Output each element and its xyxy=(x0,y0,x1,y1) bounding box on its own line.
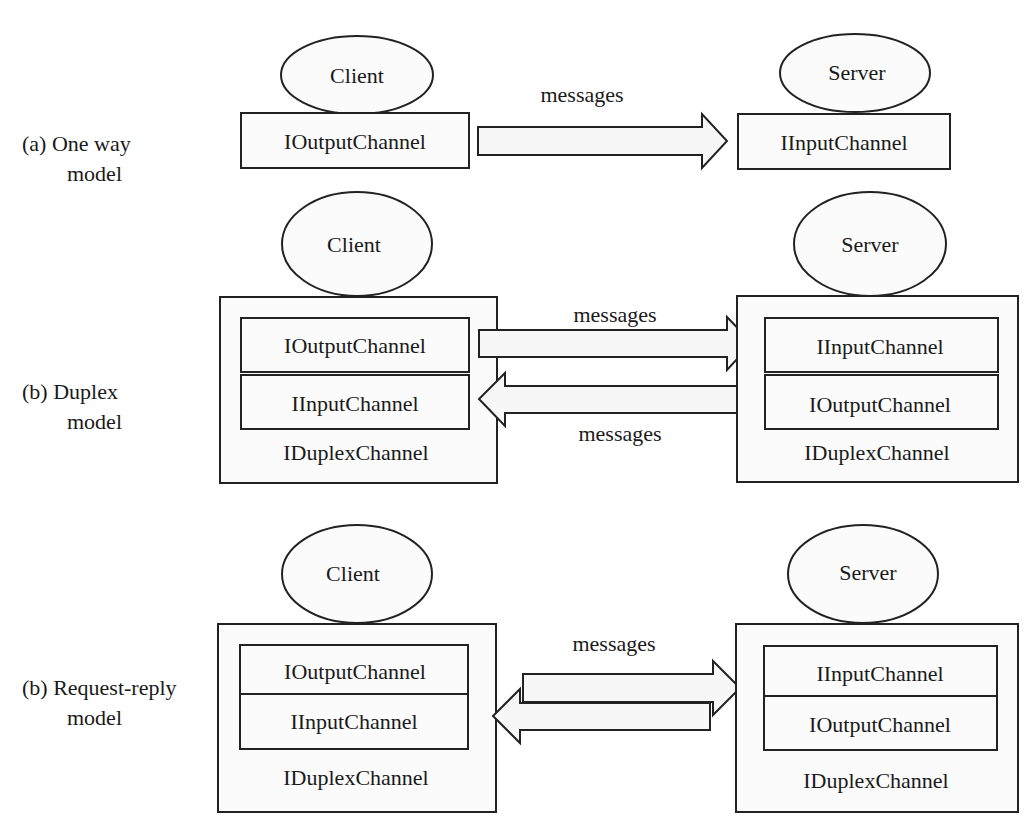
messages-label-top: messages xyxy=(573,302,656,327)
messages-label-bottom: messages xyxy=(578,421,661,446)
server-input-channel-label: IInputChannel xyxy=(816,334,943,359)
request-reply-label-line2: model xyxy=(67,705,122,730)
client-duplex-channel-label: IDuplexChannel xyxy=(283,765,428,790)
channel-models-diagram: (a) One way model Client IOutputChannel … xyxy=(0,0,1036,832)
one-way-label-line2: model xyxy=(67,161,122,186)
client-input-channel-label: IInputChannel xyxy=(290,709,417,734)
server-output-channel-label: IOutputChannel xyxy=(809,392,951,417)
client-duplex-channel-label: IDuplexChannel xyxy=(283,440,428,465)
server-duplex-channel-label: IDuplexChannel xyxy=(803,768,948,793)
messages-label: messages xyxy=(572,631,655,656)
client-label: Client xyxy=(330,63,384,88)
server-output-channel-label: IOutputChannel xyxy=(809,712,951,737)
one-way-model-section: (a) One way model Client IOutputChannel … xyxy=(22,34,950,186)
one-way-label-line1: (a) One way xyxy=(22,131,131,156)
server-label: Server xyxy=(828,60,886,85)
arrow-left-icon xyxy=(479,373,752,426)
duplex-label-line2: model xyxy=(67,409,122,434)
client-output-channel-label: IOutputChannel xyxy=(284,659,426,684)
server-input-channel-label: IInputChannel xyxy=(780,130,907,155)
arrow-right-icon xyxy=(478,114,727,168)
duplex-label-line1: (b) Duplex xyxy=(22,379,118,404)
client-input-channel-label: IInputChannel xyxy=(291,391,418,416)
request-reply-label-line1: (b) Request-reply xyxy=(22,675,177,700)
client-label: Client xyxy=(326,561,380,586)
client-output-channel-label: IOutputChannel xyxy=(284,333,426,358)
messages-label: messages xyxy=(540,82,623,107)
server-duplex-channel-label: IDuplexChannel xyxy=(804,440,949,465)
client-output-channel-label: IOutputChannel xyxy=(284,129,426,154)
server-input-channel-label: IInputChannel xyxy=(816,661,943,686)
client-label: Client xyxy=(327,232,381,257)
server-label: Server xyxy=(841,232,899,257)
request-reply-model-section: (b) Request-reply model Client IOutputCh… xyxy=(22,525,1018,812)
duplex-model-section: (b) Duplex model Client IOutputChannel I… xyxy=(22,192,1018,483)
server-label: Server xyxy=(839,560,897,585)
